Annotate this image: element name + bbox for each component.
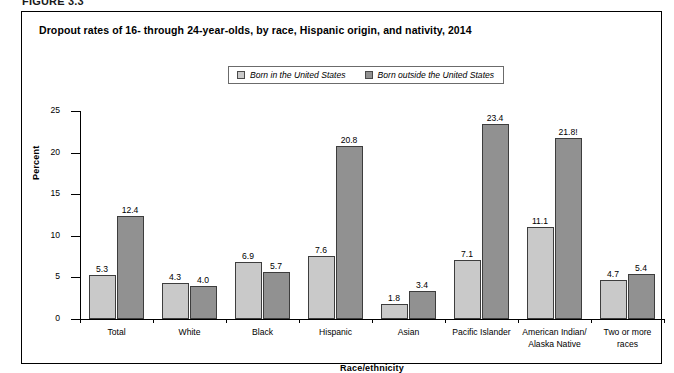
x-axis-tick bbox=[591, 319, 592, 323]
bar-value-label: 11.1 bbox=[532, 216, 548, 226]
bar-value-label: 6.9 bbox=[242, 251, 254, 261]
bar-born-in-us: 1.8 bbox=[381, 304, 408, 319]
x-axis-tick bbox=[299, 319, 300, 323]
legend-item-born-outside-us: Born outside the United States bbox=[365, 70, 495, 80]
bar-value-label: 5.3 bbox=[96, 264, 108, 274]
x-axis-tick bbox=[664, 319, 665, 323]
legend-item-born-in-us: Born in the United States bbox=[237, 70, 346, 80]
bar-value-label: 4.0 bbox=[197, 275, 209, 285]
bar-born-outside-us: 12.4 bbox=[117, 216, 144, 319]
x-axis-tick bbox=[372, 319, 373, 323]
bar-group: 5.312.4 bbox=[89, 111, 145, 319]
bar-value-label: 3.4 bbox=[416, 280, 428, 290]
bar-born-in-us: 5.3 bbox=[89, 275, 116, 319]
bar-born-outside-us: 23.4 bbox=[482, 124, 509, 319]
y-axis-tick-label: 0 bbox=[55, 313, 60, 323]
x-axis-tick bbox=[226, 319, 227, 323]
y-axis-line bbox=[80, 111, 81, 319]
bar-born-in-us: 7.6 bbox=[308, 256, 335, 319]
x-axis-tick bbox=[80, 319, 81, 323]
y-axis-tick: 15 bbox=[71, 194, 80, 195]
legend-swatch-icon bbox=[365, 71, 373, 79]
plot-area: 0510152025 5.312.4Total4.34.0White6.95.7… bbox=[80, 111, 664, 319]
bar-group: 1.83.4 bbox=[381, 111, 437, 319]
y-axis-tick-label: 25 bbox=[50, 105, 60, 115]
y-axis-tick-label: 15 bbox=[50, 188, 60, 198]
bar-group: 4.75.4 bbox=[600, 111, 656, 319]
x-axis-tick bbox=[518, 319, 519, 323]
bar-value-label: 4.3 bbox=[169, 272, 181, 282]
x-axis-line bbox=[71, 319, 664, 320]
bar-value-label: 7.6 bbox=[315, 245, 327, 255]
y-axis-tick-label: 20 bbox=[50, 147, 60, 157]
bar-value-label: 23.4 bbox=[487, 113, 504, 123]
x-axis-category-label: Two or more races bbox=[585, 327, 670, 350]
bar-born-outside-us: 5.4 bbox=[628, 274, 655, 319]
bar-born-in-us: 6.9 bbox=[235, 262, 262, 319]
x-axis-tick bbox=[445, 319, 446, 323]
y-axis-tick: 20 bbox=[71, 153, 80, 154]
bar-born-outside-us: 21.8! bbox=[555, 138, 582, 319]
chart-legend: Born in the United States Born outside t… bbox=[228, 66, 504, 84]
bar-born-in-us: 4.3 bbox=[162, 283, 189, 319]
bar-value-label: 21.8! bbox=[558, 127, 577, 137]
bar-born-outside-us: 5.7 bbox=[263, 272, 290, 319]
legend-label: Born outside the United States bbox=[378, 70, 495, 80]
y-axis-label: Percent bbox=[31, 146, 41, 180]
bar-group: 4.34.0 bbox=[162, 111, 218, 319]
chart-title: Dropout rates of 16- through 24-year-old… bbox=[39, 24, 472, 36]
legend-label: Born in the United States bbox=[250, 70, 346, 80]
x-axis-label: Race/ethnicity bbox=[80, 363, 664, 373]
legend-swatch-icon bbox=[237, 71, 245, 79]
bar-born-in-us: 11.1 bbox=[527, 227, 554, 319]
y-axis-tick: 5 bbox=[71, 277, 80, 278]
bar-group: 7.620.8 bbox=[308, 111, 364, 319]
figure-box: Dropout rates of 16- through 24-year-old… bbox=[21, 11, 662, 364]
y-axis-tick: 0 bbox=[71, 319, 80, 320]
bar-group: 11.121.8! bbox=[527, 111, 583, 319]
bar-value-label: 5.7 bbox=[270, 261, 282, 271]
x-axis-tick bbox=[153, 319, 154, 323]
y-axis-tick-label: 5 bbox=[55, 271, 60, 281]
bar-value-label: 7.1 bbox=[461, 249, 473, 259]
bar-group: 7.123.4 bbox=[454, 111, 510, 319]
bar-born-outside-us: 20.8 bbox=[336, 146, 363, 319]
bar-value-label: 20.8 bbox=[341, 135, 358, 145]
bar-value-label: 12.4 bbox=[122, 205, 139, 215]
bar-group: 6.95.7 bbox=[235, 111, 291, 319]
bar-born-in-us: 4.7 bbox=[600, 280, 627, 319]
bar-value-label: 1.8 bbox=[388, 293, 400, 303]
bar-value-label: 5.4 bbox=[635, 263, 647, 273]
bar-born-outside-us: 4.0 bbox=[190, 286, 217, 319]
bar-value-label: 4.7 bbox=[607, 269, 619, 279]
y-axis-tick-label: 10 bbox=[50, 230, 60, 240]
bar-born-outside-us: 3.4 bbox=[409, 291, 436, 319]
y-axis-tick: 25 bbox=[71, 111, 80, 112]
bar-born-in-us: 7.1 bbox=[454, 260, 481, 319]
figure-label: FIGURE 3.3 bbox=[22, 0, 84, 7]
y-axis-tick: 10 bbox=[71, 236, 80, 237]
